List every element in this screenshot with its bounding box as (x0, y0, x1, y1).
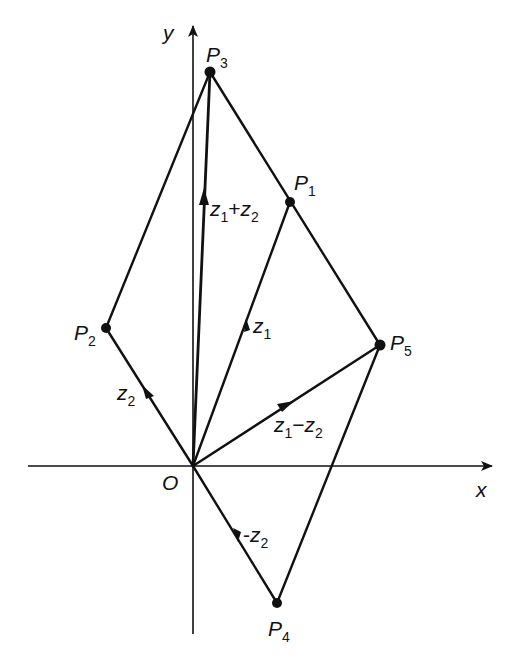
arrowhead-icon (199, 188, 209, 205)
label-z2: z2 (116, 381, 136, 409)
edge-p2-p3 (106, 72, 210, 328)
point-p2 (101, 323, 111, 333)
edge-p5-p4 (277, 345, 380, 603)
origin-label: O (162, 471, 178, 494)
label-neg-z2: -z2 (243, 523, 269, 551)
arrowhead-icon (142, 385, 154, 399)
point-p4 (272, 598, 282, 608)
y-axis-label: y (161, 21, 175, 44)
label-z1: z1 (252, 314, 272, 342)
vector-z1-minus-z2 (193, 345, 380, 466)
point-p3 (205, 67, 216, 78)
label-p5: P5 (390, 331, 412, 359)
label-p4: P4 (268, 617, 290, 645)
label-z1-plus-z2: z1+z2 (209, 197, 259, 225)
vector-z1-plus-z2 (193, 72, 210, 466)
label-p1: P1 (294, 171, 316, 199)
point-p1 (285, 197, 295, 207)
point-p5 (375, 340, 386, 351)
complex-vector-diagram: y x O P3 P1 P2 P5 P4 z1+z2 z1 z2 z1−z2 -… (0, 0, 519, 669)
label-p2: P2 (74, 321, 96, 349)
label-z1-minus-z2: z1−z2 (273, 413, 323, 441)
x-axis-label: x (475, 478, 488, 501)
